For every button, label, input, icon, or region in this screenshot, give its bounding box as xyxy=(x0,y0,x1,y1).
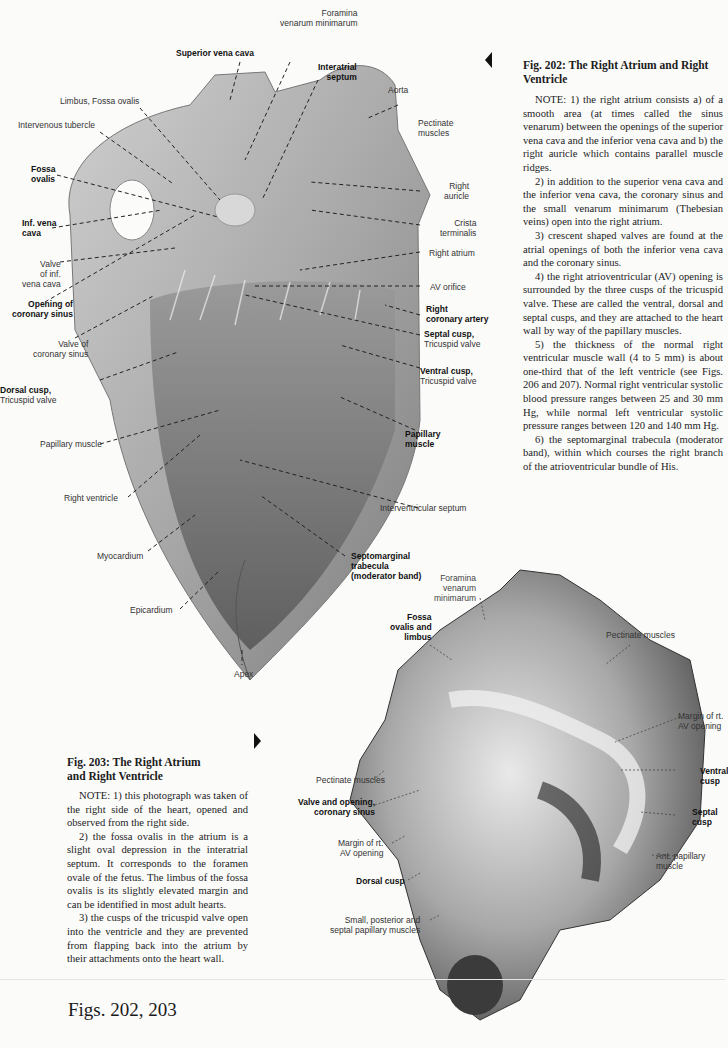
fig202-note-3: 3) crescent shaped valves are found at t… xyxy=(523,229,723,270)
label-limbus-fossa-ovalis: Limbus, Fossa ovalis xyxy=(60,96,139,106)
label-203-small-papillary-muscles: Small, posterior and septal papillary mu… xyxy=(330,915,420,935)
label-203-pectinate-muscles-left: Pectinate muscles xyxy=(316,775,385,785)
label-superior-vena-cava: Superior vena cava xyxy=(176,48,254,58)
label-pectinate-muscles: Pectinate muscles xyxy=(418,118,453,138)
fig202-caption-marker-icon xyxy=(485,52,492,68)
fig202-caption-title: Fig. 202: The Right Atrium and Right Ven… xyxy=(523,58,723,86)
label-203-ant-papillary-muscle: Ant. papillary muscle xyxy=(656,851,705,871)
label-aorta: Aorta xyxy=(388,85,408,95)
label-septal-cusp: Septal cusp, Tricuspid valve xyxy=(424,329,480,349)
page-crease-line xyxy=(0,979,725,980)
label-right-auricle: Right auricle xyxy=(444,181,469,201)
label-myocardium: Myocardium xyxy=(97,551,143,561)
label-ventral-cusp: Ventral cusp, Tricuspid valve xyxy=(420,366,476,386)
figures-footer-label: Figs. 202, 203 xyxy=(68,999,177,1021)
label-septomarginal-trabecula: Septomarginal trabecula (moderator band) xyxy=(351,551,421,581)
label-foramina-venarum-minimarum: Foramina venarum minimarum xyxy=(280,8,357,28)
fig202-note-5: 5) the thickness of the normal right ven… xyxy=(523,338,723,433)
fig203-note-3: 3) the cusps of the tricuspid valve open… xyxy=(67,911,248,965)
label-right-ventricle: Right ventricle xyxy=(64,493,118,503)
label-papillary-muscle-left: Papillary muscle xyxy=(40,439,102,449)
label-203-margin-rt-av-right: Margin of rt. AV opening xyxy=(678,711,723,731)
label-papillary-muscle-right: Papillary muscle xyxy=(405,429,440,449)
fig203-caption-title: Fig. 203: The Right Atrium and Right Ven… xyxy=(67,755,248,783)
fig202-caption: Fig. 202: The Right Atrium and Right Ven… xyxy=(523,58,723,474)
label-intervenous-tubercle: Intervenous tubercle xyxy=(18,120,95,130)
label-apex: Apex xyxy=(234,669,253,679)
fig202-note-4: 4) the right atrioventricular (AV) openi… xyxy=(523,270,723,338)
label-203-foramina: Foramina venarum minimarum xyxy=(434,573,476,603)
label-203-dorsal-cusp: Dorsal cusp xyxy=(356,876,405,886)
label-valve-of-inf-vena-cava: Valve of inf. vena cava xyxy=(22,259,61,289)
label-right-coronary-artery: Right coronary artery xyxy=(426,304,488,324)
label-opening-coronary-sinus: Opening of coronary sinus xyxy=(12,299,73,319)
fig203-caption-marker-icon xyxy=(254,733,261,749)
fig202-note-1: NOTE: 1) the right atrium consists a) of… xyxy=(523,93,723,175)
label-inf-vena-cava: Inf. vena cava xyxy=(22,218,56,238)
label-203-valve-opening-coronary-sinus: Valve and opening, coronary sinus xyxy=(298,797,375,817)
label-right-atrium: Right atrium xyxy=(429,248,475,258)
fig203-caption: Fig. 203: The Right Atrium and Right Ven… xyxy=(67,755,248,966)
label-crista-terminalis: Crista terminalis xyxy=(440,218,476,238)
fig203-note-2: 2) the fossa ovalis in the atrium is a s… xyxy=(67,830,248,912)
label-203-septal-cusp: Septal cusp xyxy=(692,807,718,827)
fig202-heart-drawing xyxy=(69,66,430,680)
label-203-pectinate-muscles-top: Pectinate muscles xyxy=(606,630,675,640)
label-203-margin-rt-av-left: Margin of rt. AV opening xyxy=(338,838,383,858)
label-fossa-ovalis: Fossa ovalis xyxy=(31,164,56,184)
label-av-orifice: AV orifice xyxy=(430,282,466,292)
fig202-note-6: 6) the septomarginal trabecula (moderato… xyxy=(523,433,723,474)
fig203-note-1: NOTE: 1) this photograph was taken of th… xyxy=(67,789,248,830)
label-interatrial-septum: Interatrial septum xyxy=(318,62,357,82)
label-dorsal-cusp: Dorsal cusp, Tricuspid valve xyxy=(0,385,56,405)
label-valve-of-coronary-sinus: Valve of coronary sinus xyxy=(33,339,88,359)
label-203-ventral-cusp: Ventral cusp xyxy=(700,766,728,786)
label-epicardium: Epicardium xyxy=(130,605,173,615)
label-interventricular-septum: Interventricular septum xyxy=(380,503,466,513)
fig202-note-2: 2) in addition to the superior vena cava… xyxy=(523,175,723,229)
label-203-fossa-ovalis-limbus: Fossa ovalis and limbus xyxy=(390,612,432,642)
